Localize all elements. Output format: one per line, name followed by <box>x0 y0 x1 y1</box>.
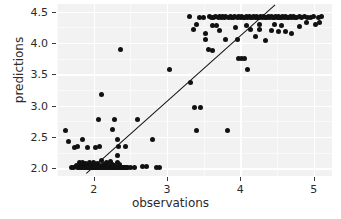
scatter-point <box>317 20 322 25</box>
scatter-point <box>297 24 302 29</box>
scatter-point <box>203 37 208 42</box>
scatter-point <box>132 165 137 170</box>
scatter-point <box>225 128 230 133</box>
scatter-point <box>187 14 192 19</box>
scatter-point <box>253 34 258 39</box>
x-axis-tick-label: 5 <box>299 184 329 195</box>
x-axis-tick-mark <box>167 177 168 181</box>
gridline-minor-horizontal <box>57 153 332 154</box>
x-axis-tick-mark <box>94 177 95 181</box>
scatter-point <box>85 145 90 150</box>
scatter-point <box>257 27 262 32</box>
scatter-point <box>150 137 155 142</box>
y-axis-label: predictions <box>12 5 26 135</box>
scatter-point <box>245 67 250 72</box>
scatter-plot-figure: 2.02.53.03.54.04.52345 observations pred… <box>0 0 341 219</box>
scatter-point <box>210 23 215 28</box>
y-axis-tick-mark <box>52 168 56 169</box>
scatter-point <box>75 144 80 149</box>
scatter-point <box>157 165 162 170</box>
x-axis-tick-label: 2 <box>79 184 109 195</box>
scatter-point <box>272 22 277 27</box>
scatter-point <box>144 164 149 169</box>
scatter-point <box>194 22 199 27</box>
scatter-point <box>257 22 262 27</box>
y-axis-tick-mark <box>52 106 56 107</box>
x-axis-tick-label: 4 <box>225 184 255 195</box>
scatter-point <box>99 92 104 97</box>
gridline-minor-horizontal <box>57 90 332 91</box>
scatter-point <box>112 117 117 122</box>
scatter-point <box>118 47 123 52</box>
scatter-point <box>201 15 206 20</box>
y-axis-tick-mark <box>52 137 56 138</box>
scatter-point <box>96 117 101 122</box>
gridline-major-vertical <box>167 4 168 176</box>
y-axis-tick-label: 2.0 <box>18 163 48 174</box>
scatter-point <box>97 144 102 149</box>
x-axis-tick-mark <box>314 177 315 181</box>
y-axis-tick-mark <box>52 74 56 75</box>
gridline-major-horizontal <box>57 137 332 138</box>
x-axis-tick-mark <box>240 177 241 181</box>
scatter-point <box>210 48 215 53</box>
scatter-point <box>263 38 268 43</box>
gridline-major-horizontal <box>57 43 332 44</box>
scatter-point <box>279 23 284 28</box>
gridline-minor-horizontal <box>57 59 332 60</box>
scatter-point <box>319 14 324 19</box>
gridline-major-vertical <box>240 4 241 176</box>
scatter-point <box>304 20 309 25</box>
x-axis-label: observations <box>0 196 341 210</box>
gridline-major-horizontal <box>57 12 332 13</box>
scatter-point <box>269 28 274 33</box>
scatter-point <box>203 31 208 36</box>
gridline-major-vertical <box>314 4 315 176</box>
x-axis-tick-label: 3 <box>152 184 182 195</box>
gridline-major-vertical <box>94 4 95 176</box>
scatter-point <box>115 137 120 142</box>
y-axis-tick-mark <box>52 43 56 44</box>
y-axis-tick-mark <box>52 12 56 13</box>
